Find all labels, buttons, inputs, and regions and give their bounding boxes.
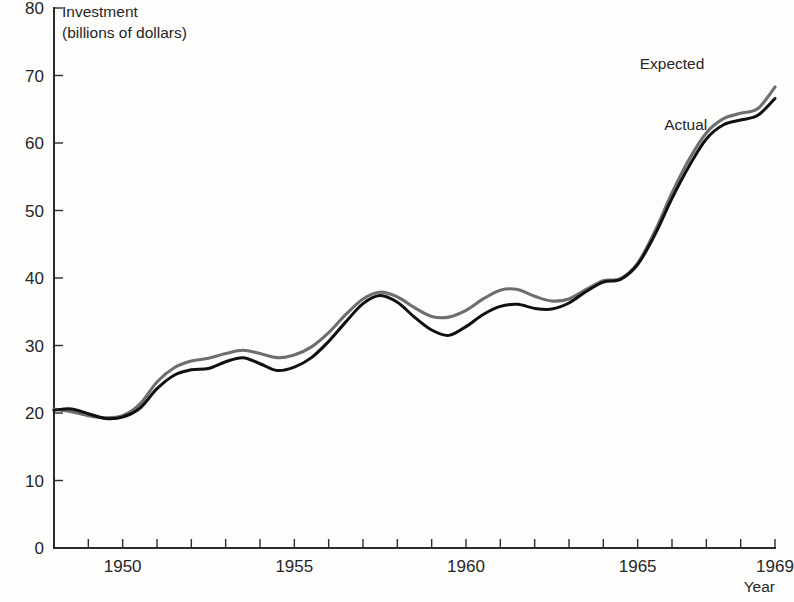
x-axis-title: Year — [744, 578, 775, 595]
y-axis-title-line1: Investment — [62, 3, 139, 20]
chart-figure: 01020304050607080 19501955196019651969 I… — [0, 0, 794, 602]
series-line-expected — [54, 87, 775, 418]
y-tick-label: 50 — [25, 202, 44, 221]
y-tick-label: 40 — [25, 269, 44, 288]
x-tick-label: 1965 — [619, 557, 657, 576]
axis-lines — [54, 8, 775, 548]
x-tick-label: 1950 — [104, 557, 142, 576]
y-tick-label: 20 — [25, 404, 44, 423]
investment-line-chart: 01020304050607080 19501955196019651969 I… — [0, 0, 794, 602]
y-tick-label: 70 — [25, 67, 44, 86]
x-tick-label: 1960 — [447, 557, 485, 576]
series-label-expected: Expected — [640, 55, 705, 72]
y-tick-label: 30 — [25, 337, 44, 356]
y-tick-label: 60 — [25, 134, 44, 153]
y-axis-title-line2: (billions of dollars) — [62, 24, 187, 41]
y-tick-label: 80 — [25, 0, 44, 18]
x-axis-ticks — [54, 539, 775, 548]
x-tick-label: 1969 — [756, 557, 794, 576]
y-tick-label: 10 — [25, 472, 44, 491]
series-label-actual: Actual — [664, 116, 707, 133]
series-line-actual — [54, 98, 775, 418]
y-axis-tick-labels: 01020304050607080 — [25, 0, 44, 558]
series-group — [54, 87, 775, 419]
x-axis-tick-labels: 19501955196019651969 — [104, 557, 794, 576]
y-tick-label: 0 — [35, 539, 44, 558]
x-tick-label: 1955 — [275, 557, 313, 576]
